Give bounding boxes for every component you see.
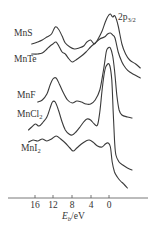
- label-mnf: MnF: [17, 90, 35, 100]
- label-mnte: MnTe: [14, 54, 37, 64]
- tick-label-16: 16: [30, 200, 40, 210]
- curve-mnf: [38, 47, 132, 118]
- curve-labels: MnSMnTeMnFMnCl2MnI2: [14, 28, 42, 154]
- tick-label-12: 12: [48, 200, 58, 210]
- curve-mni2: [29, 136, 128, 188]
- peak-annotation: 2p3/2: [118, 12, 136, 23]
- tick-label-0: 0: [107, 200, 112, 210]
- spectra-curves: [29, 14, 141, 188]
- curve-mncl2: [29, 64, 133, 170]
- curve-mns: [32, 14, 141, 68]
- curve-mnte: [32, 33, 141, 78]
- label-mns: MnS: [14, 28, 32, 38]
- x-axis-ticks: 16 12 8 4 0: [30, 195, 111, 210]
- label-mni2: MnI2: [21, 143, 41, 154]
- tick-label-8: 8: [70, 200, 75, 210]
- xps-spectra-chart: MnSMnTeMnFMnCl2MnI2 2p3/2 16 12 8 4 0 Eb…: [0, 0, 161, 231]
- x-axis-title: Eb/eV: [61, 211, 85, 222]
- tick-label-4: 4: [89, 200, 94, 210]
- label-mncl2: MnCl2: [17, 109, 42, 120]
